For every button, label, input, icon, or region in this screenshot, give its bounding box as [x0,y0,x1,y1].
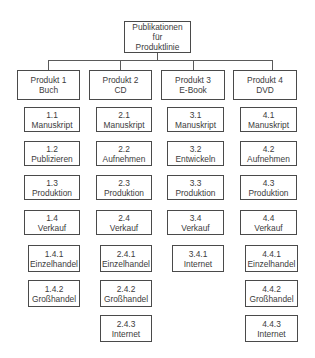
product-3-connector [193,60,194,70]
subtask-node-1-4-2: 1.4.2 Großhandel [28,280,80,307]
task-label: Verkauf [181,223,209,233]
task-node-2-1: 2.1 Manuskript [96,107,152,132]
subtask-number: 2.4.1 [117,249,136,259]
product-type: CD [114,85,126,95]
subtask-number: 2.4.3 [117,319,136,329]
root-line-1: Publikationen [132,22,182,32]
subtask-label: Einzelhandel [30,259,78,269]
task-number: 2.1 [118,110,130,120]
task-node-4-4: 4.4 Verkauf [240,210,297,235]
product-4-connector [272,60,273,70]
subtask-node-1-4-1: 1.4.1 Einzelhandel [28,245,80,272]
product-type: E-Book [179,85,206,95]
root-connector [157,52,158,60]
task-number: 3.3 [190,178,202,188]
product-name: Produkt 3 [175,75,211,85]
task-node-4-1: 4.1 Manuskript [240,107,297,132]
root-line-3: Produktlinie [136,42,180,52]
product-1-connector [48,60,49,70]
subtask-node-3-4-1: 3.4.1 Internet [172,245,224,272]
task-node-1-4: 1.4 Verkauf [24,210,80,235]
task-number: 3.2 [190,144,202,154]
task-number: 4.2 [263,144,275,154]
product-node-2: Produkt 2 CD [89,70,152,100]
subtask-label: Großhandel [104,294,148,304]
task-label: Produktion [32,188,72,198]
task-label: Verkauf [254,223,282,233]
task-node-1-1: 1.1 Manuskript [24,107,80,132]
task-node-3-1: 3.1 Manuskript [167,107,224,132]
task-label: Verkauf [110,223,138,233]
task-number: 3.1 [190,110,202,120]
subtask-label: Einzelhandel [102,259,150,269]
subtask-node-2-4-3: 2.4.3 Internet [100,315,152,342]
product-type: Buch [39,85,58,95]
task-node-3-2: 3.2 Entwickeln [167,141,224,166]
task-number: 4.4 [263,213,275,223]
task-label: Produktion [104,188,144,198]
product-name: Produkt 4 [247,75,283,85]
subtask-node-4-4-2: 4.4.2 Großhandel [245,280,298,307]
subtask-label: Einzelhandel [248,259,296,269]
task-node-2-2: 2.2 Aufnehmen [96,141,152,166]
task-number: 1.4 [46,213,58,223]
subtask-number: 4.4.3 [262,319,281,329]
task-number: 1.2 [46,144,58,154]
product-name: Produkt 1 [31,75,67,85]
task-node-3-4: 3.4 Verkauf [167,210,224,235]
task-number: 2.2 [118,144,130,154]
task-node-4-3: 4.3 Produktion [240,175,297,200]
subtask-number: 1.4.2 [45,284,64,294]
task-label: Aufnehmen [103,154,146,164]
subtask-node-2-4-1: 2.4.1 Einzelhandel [100,245,152,272]
task-label: Aufnehmen [247,154,290,164]
task-label: Entwickeln [175,154,215,164]
product-name: Produkt 2 [103,75,139,85]
task-label: Produktion [175,188,215,198]
task-number: 4.1 [263,110,275,120]
product-type: DVD [256,85,274,95]
subtask-node-4-4-3: 4.4.3 Internet [245,315,298,342]
task-label: Produktion [248,188,288,198]
product-node-1: Produkt 1 Buch [17,70,80,100]
subtask-label: Großhandel [249,294,293,304]
task-number: 2.3 [118,178,130,188]
task-node-4-2: 4.2 Aufnehmen [240,141,297,166]
subtask-label: Internet [112,329,140,339]
subtask-number: 4.4.2 [262,284,281,294]
subtask-node-4-4-1: 4.4.1 Einzelhandel [245,245,298,272]
task-node-3-3: 3.3 Produktion [167,175,224,200]
subtask-label: Großhandel [32,294,76,304]
root-line-2: für [153,32,163,42]
task-node-2-4: 2.4 Verkauf [96,210,152,235]
task-label: Verkauf [38,223,66,233]
task-label: Manuskript [248,120,289,130]
subtask-number: 1.4.1 [45,249,64,259]
product-node-4: Produkt 4 DVD [233,70,297,100]
subtask-number: 2.4.2 [117,284,136,294]
subtask-label: Internet [184,259,212,269]
task-node-2-3: 2.3 Produktion [96,175,152,200]
product-2-connector [120,60,121,70]
root-node: Publikationen für Produktlinie [124,21,191,53]
subtask-node-2-4-2: 2.4.2 Großhandel [100,280,152,307]
task-label: Manuskript [175,120,216,130]
task-number: 4.3 [263,178,275,188]
task-node-1-2: 1.2 Publizieren [24,141,80,166]
subtask-number: 3.4.1 [189,249,208,259]
task-label: Manuskript [104,120,145,130]
task-number: 2.4 [118,213,130,223]
subtask-number: 4.4.1 [262,249,281,259]
task-number: 1.1 [46,110,58,120]
task-number: 1.3 [46,178,58,188]
task-label: Manuskript [32,120,73,130]
subtask-label: Internet [257,329,285,339]
level-connector [48,60,273,61]
task-number: 3.4 [190,213,202,223]
product-node-3: Produkt 3 E-Book [161,70,225,100]
task-node-1-3: 1.3 Produktion [24,175,80,200]
task-label: Publizieren [31,154,72,164]
